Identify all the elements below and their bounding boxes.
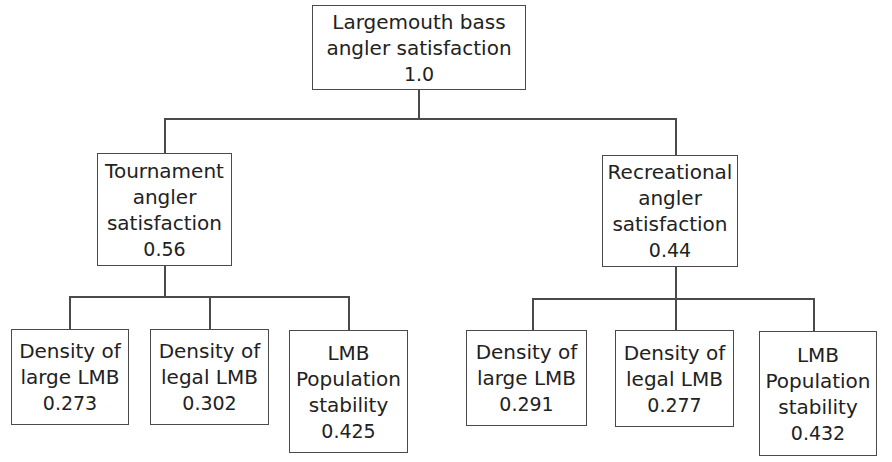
connector	[418, 89, 420, 119]
node-value: 0.44	[649, 237, 691, 263]
leaf-node: Density of large LMB 0.291	[466, 330, 587, 426]
node-value: 1.0	[404, 61, 434, 87]
node-label: Density of	[159, 338, 261, 364]
node-label: Population	[765, 368, 870, 394]
node-label: angler	[133, 184, 197, 210]
node-label: Density of	[19, 338, 121, 364]
tournament-node: Tournament angler satisfaction 0.56	[97, 153, 232, 266]
node-label: satisfaction	[612, 211, 727, 237]
node-value: 0.425	[321, 418, 375, 444]
leaf-node: LMB Population stability 0.432	[759, 331, 877, 456]
recreational-node: Recreational angler satisfaction 0.44	[602, 155, 738, 267]
node-label: Density of	[624, 340, 726, 366]
node-label: stability	[778, 394, 858, 420]
connector	[348, 296, 350, 331]
connector	[532, 298, 814, 300]
node-label: Recreational	[608, 159, 733, 185]
connector	[813, 298, 815, 332]
connector	[164, 265, 166, 297]
node-value: 0.56	[143, 236, 185, 262]
node-label: legal LMB	[161, 364, 258, 390]
leaf-node: LMB Population stability 0.425	[289, 330, 408, 453]
leaf-node: Density of legal LMB 0.302	[150, 329, 269, 425]
connector	[164, 118, 166, 154]
connector	[209, 296, 211, 330]
root-node: Largemouth bass angler satisfaction 1.0	[312, 5, 526, 90]
node-value: 0.432	[791, 420, 845, 446]
node-label: angler	[638, 185, 702, 211]
node-label: legal LMB	[626, 366, 723, 392]
node-value: 0.302	[182, 390, 236, 416]
leaf-node: Density of large LMB 0.273	[11, 329, 129, 425]
node-value: 0.277	[647, 392, 701, 418]
node-label: Tournament	[105, 158, 224, 184]
connector	[164, 118, 676, 120]
connector	[69, 296, 71, 330]
node-value: 0.273	[43, 390, 97, 416]
node-label: Density of	[476, 339, 578, 365]
node-label: large LMB	[477, 365, 576, 391]
node-label: satisfaction	[107, 210, 222, 236]
node-value: 0.291	[499, 391, 553, 417]
node-label: large LMB	[20, 364, 119, 390]
node-label: LMB	[327, 340, 369, 366]
node-label: Population	[296, 366, 401, 392]
node-label: angler satisfaction	[326, 35, 511, 61]
node-label: stability	[309, 392, 389, 418]
leaf-node: Density of legal LMB 0.277	[615, 330, 734, 427]
connector	[532, 298, 534, 331]
node-label: Largemouth bass	[332, 9, 505, 35]
node-label: LMB	[797, 342, 839, 368]
connector	[675, 118, 677, 156]
